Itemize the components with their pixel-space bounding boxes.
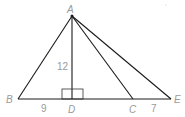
segment-AB bbox=[18, 16, 72, 99]
label-D: D bbox=[68, 104, 75, 115]
segment-AE bbox=[72, 16, 171, 99]
segment-AC bbox=[72, 16, 133, 99]
triangle-diagram: A B D C E 12 9 7 bbox=[0, 0, 185, 117]
speck bbox=[166, 5, 167, 6]
measure-BD: 9 bbox=[41, 103, 47, 114]
label-C: C bbox=[129, 104, 137, 115]
label-A: A bbox=[66, 4, 74, 15]
measure-CE: 7 bbox=[151, 103, 157, 114]
label-E: E bbox=[174, 94, 181, 105]
label-B: B bbox=[6, 94, 13, 105]
measure-AD: 12 bbox=[57, 61, 69, 72]
